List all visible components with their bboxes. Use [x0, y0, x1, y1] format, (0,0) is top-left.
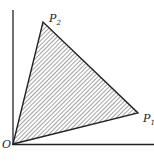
point-p1-label: P1 — [142, 112, 154, 127]
origin-label: O — [2, 138, 11, 151]
point-p2-label: P2 — [48, 12, 61, 27]
hatched-triangle-region — [13, 22, 138, 144]
triangle-diagram: O P2 P1 — [0, 0, 154, 162]
